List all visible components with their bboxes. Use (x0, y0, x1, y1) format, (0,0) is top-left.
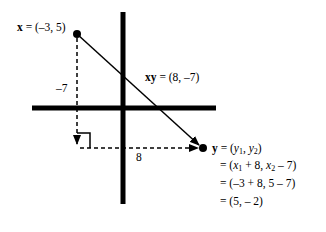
vertical-displacement-label: –7 (56, 83, 68, 95)
horizontal-displacement-label: 8 (136, 152, 142, 164)
equals: = (157, 71, 169, 83)
right-angle-marker (77, 133, 90, 148)
point-y-line2: = (x1 + 8, x2 – 7) (220, 160, 296, 173)
vector-xy-var: xy (145, 71, 157, 83)
point-x-label: x = (–3, 5) (17, 22, 66, 34)
point-y (199, 144, 207, 152)
paren: ) (258, 142, 262, 154)
eq-end: – 7) (275, 159, 296, 171)
equals: = (23, 21, 35, 33)
point-y-line1: y = (y1, y2) (212, 143, 262, 156)
equals: = (218, 142, 230, 154)
vector-xy-value: (8, –7) (169, 71, 200, 83)
eq-prefix: = ( (220, 159, 233, 171)
vector-xy-label: xy = (8, –7) (145, 72, 199, 84)
point-x-value: (–3, 5) (35, 21, 66, 33)
coordinate-diagram (0, 0, 326, 232)
vector-xy-arrow (77, 34, 199, 145)
eq-mid: + 8, (242, 159, 266, 171)
point-y-line4: = (5, – 2) (220, 196, 263, 208)
point-x (73, 30, 81, 38)
point-y-line3: = (–3 + 8, 5 – 7) (220, 178, 295, 190)
